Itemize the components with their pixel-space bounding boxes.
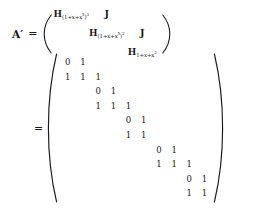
left-parenthesis-bottom <box>47 52 58 204</box>
band-cell-0: 0 <box>187 175 192 184</box>
matrix-cell-j-2: J <box>140 28 145 39</box>
equals-sign-top: = <box>28 27 37 40</box>
band-cell-1: 1 <box>202 175 207 184</box>
right-parenthesis-top <box>162 14 171 54</box>
equals-sign-bottom: = <box>34 122 43 135</box>
band-cell-1: 1 <box>126 102 131 111</box>
band-cell-1: 1 <box>171 146 176 155</box>
band-cell-1: 1 <box>80 73 85 82</box>
band-cell-1: 1 <box>202 189 207 198</box>
band-cell-1: 1 <box>95 73 100 82</box>
band-cell-0: 0 <box>65 58 70 67</box>
band-cell-1: 1 <box>111 102 116 111</box>
band-cell-1: 1 <box>95 102 100 111</box>
left-parenthesis-top <box>43 14 52 54</box>
band-cell-0: 0 <box>95 87 100 96</box>
matrix-cell-h-2: H(1+x+x5)2 <box>89 28 124 40</box>
prime-symbol: ′ <box>20 28 23 40</box>
band-cell-0: 0 <box>156 146 161 155</box>
band-cell-1: 1 <box>65 73 70 82</box>
band-cell-1: 1 <box>141 116 146 125</box>
band-cell-0: 0 <box>126 116 131 125</box>
band-cell-1: 1 <box>126 131 131 140</box>
band-cell-1: 1 <box>156 160 161 169</box>
matrix-label-a-prime: A′ <box>12 28 23 40</box>
band-cell-1: 1 <box>171 160 176 169</box>
bottom-equation: = 01000000001110000000000100000000111000… <box>0 52 258 204</box>
band-cell-1: 1 <box>111 87 116 96</box>
band-cell-1: 1 <box>80 58 85 67</box>
band-matrix-grid: 0100000000111000000000010000000011100000… <box>58 53 213 203</box>
band-cell-1: 1 <box>187 189 192 198</box>
matrix-cell-h-1: H(1+x+x5)3 <box>54 9 89 21</box>
matrix-cell-j-1: J <box>105 9 110 20</box>
right-parenthesis-bottom <box>213 52 224 204</box>
band-cell-1: 1 <box>187 160 192 169</box>
band-cell-1: 1 <box>141 131 146 140</box>
